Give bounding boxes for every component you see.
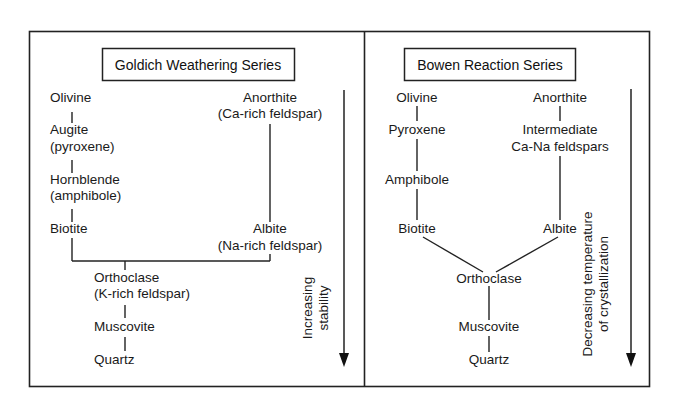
- bowen-intermediate: Intermediate: [522, 122, 597, 139]
- arrow-label-line1: Increasing: [300, 277, 316, 339]
- increasing-stability-label: Increasing stability: [300, 277, 332, 339]
- decreasing-temperature-arrow: [626, 89, 636, 367]
- goldich-orthoclase: Orthoclase: [94, 270, 159, 287]
- goldich-title: Goldich Weathering Series: [115, 57, 281, 73]
- arrow-label-line2: stability: [316, 277, 332, 339]
- goldich-hornblende-sub: (amphibole): [50, 188, 121, 205]
- goldich-muscovite: Muscovite: [94, 319, 155, 336]
- bowen-pyroxene: Pyroxene: [388, 122, 445, 139]
- bowen-intermediate-sub: Ca-Na feldspars: [511, 139, 609, 156]
- goldich-anorthite: Anorthite: [243, 90, 297, 107]
- bowen-title: Bowen Reaction Series: [417, 57, 563, 73]
- bowen-quartz: Quartz: [469, 352, 510, 369]
- bowen-amphibole: Amphibole: [385, 172, 449, 189]
- weathering-vs-bowen-diagram: Goldich Weathering Series Bowen Reaction…: [0, 0, 674, 405]
- increasing-stability-arrow: [339, 90, 349, 367]
- goldich-olivine: Olivine: [50, 90, 91, 107]
- bowen-albite: Albite: [543, 221, 577, 238]
- goldich-albite-sub: (Na-rich feldspar): [218, 238, 322, 255]
- bowen-muscovite: Muscovite: [459, 319, 520, 336]
- bowen-olivine: Olivine: [396, 90, 437, 107]
- goldich-augite: Augite: [50, 122, 88, 139]
- goldich-augite-sub: (pyroxene): [50, 139, 115, 156]
- goldich-hornblende: Hornblende: [50, 172, 120, 189]
- goldich-albite: Albite: [253, 221, 287, 238]
- goldich-biotite: Biotite: [50, 221, 88, 238]
- bowen-orthoclase: Orthoclase: [456, 271, 521, 288]
- goldich-quartz: Quartz: [94, 352, 135, 369]
- decreasing-temperature-label: Decreasing temperature of crystallizatio…: [580, 212, 612, 357]
- goldich-orthoclase-sub: (K-rich feldspar): [94, 286, 190, 303]
- bowen-biotite: Biotite: [398, 221, 436, 238]
- goldich-anorthite-sub: (Ca-rich feldspar): [218, 106, 322, 123]
- arrow-label-line1: Decreasing temperature: [580, 212, 596, 357]
- bowen-anorthite: Anorthite: [533, 90, 587, 107]
- arrow-label-line2: of crystallization: [596, 212, 612, 357]
